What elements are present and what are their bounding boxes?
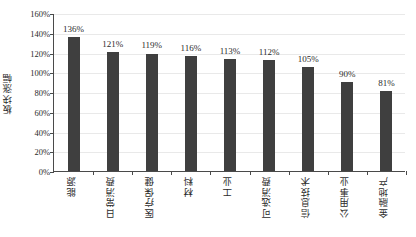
y-axis-tick-label: 0% [16, 168, 50, 177]
bar [146, 54, 158, 172]
x-axis-tick-label: 材料 [185, 176, 195, 197]
x-axis-tick-mark [210, 171, 211, 175]
x-axis-category: 可选消费 [263, 176, 273, 237]
gridline [54, 14, 405, 15]
bar [224, 59, 236, 171]
bar-value-label: 113% [220, 47, 241, 56]
bar-value-label: 90% [339, 70, 356, 79]
x-axis-tick-mark [289, 171, 290, 175]
y-axis-tick-label: 60% [16, 109, 50, 118]
x-axis-category: 金融地产 [380, 176, 390, 237]
plot-area: 136%121%119%116%113%112%105%90%81% [53, 14, 405, 172]
y-axis-tick-mark [50, 54, 54, 55]
y-axis-tick-label: 140% [16, 30, 50, 39]
bar-value-label: 116% [181, 44, 202, 53]
bar-value-label: 81% [378, 79, 395, 88]
x-axis-tick-label: 金融地产 [380, 176, 390, 218]
y-axis-tick-mark [50, 73, 54, 74]
x-axis-tick-label: 能源 [68, 176, 78, 197]
y-axis-tick-label: 100% [16, 69, 50, 78]
y-axis-tick-labels: 0%20%40%60%80%100%120%140%160% [16, 0, 50, 185]
bar [302, 67, 314, 171]
y-axis-tick-label: 40% [16, 128, 50, 137]
bar-value-label: 121% [102, 40, 123, 49]
x-axis-tick-label: 医疗保健 [146, 176, 156, 218]
y-axis-title-label: 板块涨幅 [4, 72, 14, 114]
x-axis-tick-mark [93, 171, 94, 175]
x-axis-tick-mark [406, 171, 407, 175]
bar-value-label: 112% [259, 48, 280, 57]
x-axis-category: 医疗保健 [146, 176, 156, 237]
x-axis-tick-labels: 能源日常消费医疗保健材料工业可选消费信息技术公用事业金融地产 [53, 176, 405, 237]
bar-value-label: 105% [298, 55, 319, 64]
y-axis-tick-mark [50, 133, 54, 134]
x-axis-tick-label: 信息技术 [302, 176, 312, 218]
bar-value-label: 119% [141, 41, 162, 50]
bar [380, 91, 392, 171]
bar [107, 52, 119, 171]
bar [68, 37, 80, 171]
y-axis-tick-label: 120% [16, 49, 50, 58]
gridline [54, 34, 405, 35]
x-axis-tick-mark [367, 171, 368, 175]
x-axis-tick-mark [328, 171, 329, 175]
y-axis-tick-label: 160% [16, 10, 50, 19]
x-axis-tick-label: 日常消费 [107, 176, 117, 218]
bar [263, 60, 275, 171]
x-axis-category: 工业 [224, 176, 234, 237]
x-axis-tick-label: 公用事业 [341, 176, 351, 218]
bar-value-label: 136% [63, 25, 84, 34]
x-axis-tick-label: 可选消费 [263, 176, 273, 218]
x-axis-category: 日常消费 [107, 176, 117, 237]
x-axis-category: 能源 [68, 176, 78, 237]
x-axis-category: 信息技术 [302, 176, 312, 237]
x-axis-tick-mark [171, 171, 172, 175]
y-axis-tick-mark [50, 172, 54, 173]
x-axis-category: 材料 [185, 176, 195, 237]
y-axis-tick-label: 20% [16, 148, 50, 157]
bar-chart: 板块涨幅 0%20%40%60%80%100%120%140%160% 136%… [0, 0, 416, 237]
y-axis-tick-mark [50, 152, 54, 153]
x-axis-tick-mark [132, 171, 133, 175]
y-axis-tick-label: 80% [16, 89, 50, 98]
x-axis-tick-label: 工业 [224, 176, 234, 197]
y-axis-tick-mark [50, 34, 54, 35]
x-axis-tick-mark [250, 171, 251, 175]
x-axis-category: 公用事业 [341, 176, 351, 237]
bar [341, 82, 353, 171]
y-axis-tick-mark [50, 14, 54, 15]
y-axis-tick-mark [50, 113, 54, 114]
bar [185, 56, 197, 171]
y-axis-tick-mark [50, 93, 54, 94]
